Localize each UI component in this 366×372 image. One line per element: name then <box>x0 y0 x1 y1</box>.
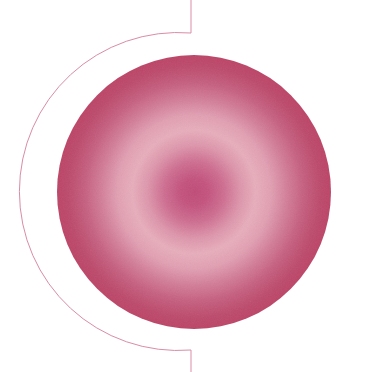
artwork-canvas <box>0 0 366 372</box>
artboard <box>0 0 366 372</box>
